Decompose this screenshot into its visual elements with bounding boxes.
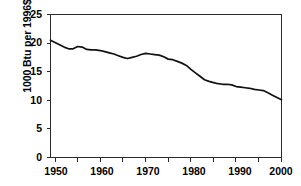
y-tick-marks [47, 15, 51, 158]
plot-area [0, 0, 301, 186]
data-series-line [51, 40, 282, 99]
chart-container: 1000 Btu per 1996$ 25 20 15 10 5 0 1950 … [0, 0, 301, 186]
x-tick-marks [55, 158, 281, 162]
axis-frame [51, 15, 282, 158]
